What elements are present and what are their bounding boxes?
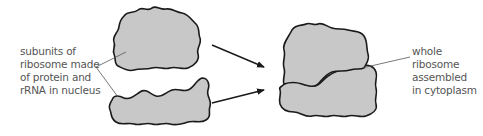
right-label-line: whole: [412, 45, 477, 58]
arrow-small-to-whole: [212, 90, 264, 103]
left-label-line: subunits of: [20, 45, 100, 58]
leader-right-to-whole: [362, 57, 410, 68]
arrow-large-to-whole: [212, 45, 264, 67]
right-label-line: assembled: [412, 71, 477, 84]
right-label-line: ribosome: [412, 58, 477, 71]
right-label-line: in cytoplasm: [412, 84, 477, 97]
left-label-line: ribosome made: [20, 58, 100, 71]
left-label-line: rRNA in nucleus: [20, 84, 100, 97]
small-subunit-blob: [109, 78, 210, 125]
left-label-line: of protein and: [20, 71, 100, 84]
left-label: subunits of ribosome made of protein and…: [20, 45, 100, 97]
large-subunit-blob: [113, 7, 200, 71]
right-label: whole ribosome assembled in cytoplasm: [412, 45, 477, 97]
